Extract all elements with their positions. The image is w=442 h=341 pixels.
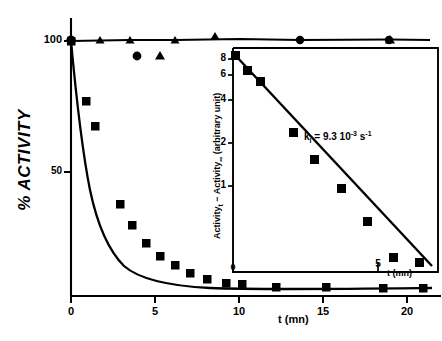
inset-ytick-label-2: 2 — [206, 136, 226, 147]
main-xtick-label-0: 0 — [61, 305, 81, 317]
main-xtick-label-10: 10 — [229, 305, 249, 317]
decay-square-marker — [67, 37, 76, 46]
rate-units-exponent: -1 — [365, 130, 371, 137]
decay-square-marker — [222, 279, 231, 288]
inset-ytick-label-8: 8 — [206, 52, 226, 63]
rate-constant-annotation: ki = 9.3 10-3 s-1 — [304, 130, 372, 144]
control-circle-marker — [296, 36, 304, 44]
inset-square-marker — [415, 258, 424, 267]
decay-square-marker — [379, 284, 388, 293]
main-x-axis-label: t (mn) — [278, 313, 309, 325]
inset-ytick-label-1: 1 — [206, 179, 226, 190]
inset-square-marker — [289, 128, 298, 137]
decay-square-marker — [238, 280, 247, 289]
decay-square-marker — [91, 122, 100, 131]
inset-ytick-label-6: 6 — [206, 68, 226, 79]
offline-triangle-marker — [155, 51, 165, 60]
inset-square-marker — [363, 217, 372, 226]
inset-xtick-label-5: 5 — [369, 258, 387, 269]
decay-square-marker — [322, 283, 331, 292]
main-xtick-label-20: 20 — [397, 305, 417, 317]
decay-square-marker — [171, 261, 180, 270]
decay-square-marker — [419, 284, 428, 293]
offline-circle-marker — [133, 52, 142, 61]
rate-value: = 9.3 10 — [312, 131, 351, 142]
inset-square-marker — [389, 253, 398, 262]
inset-square-marker — [256, 77, 265, 86]
main-ytick-label-100: 100 — [28, 33, 62, 45]
inset-x-axis-label: t (mn) — [387, 268, 412, 278]
main-ytick-label-50: 50 — [36, 165, 62, 176]
decay-square-marker — [116, 200, 125, 209]
control-series-line — [71, 39, 430, 41]
decay-square-marker — [82, 97, 91, 106]
main-xtick-label-15: 15 — [313, 305, 333, 317]
inset-square-marker — [337, 184, 346, 193]
control-triangle-marker — [211, 32, 220, 40]
control-circle-marker — [385, 36, 393, 44]
inset-xtick-label-0: 0 — [224, 262, 242, 272]
inset-square-marker — [243, 66, 252, 75]
inset-ylabel-activity-t: Activity — [212, 207, 222, 240]
main-y-axis-label: % ACTIVITY — [15, 95, 35, 225]
inset-ylabel-subscript-inf: ∞ — [217, 157, 224, 162]
decay-square-marker — [203, 275, 212, 284]
inset-square-marker — [310, 155, 319, 164]
decay-square-marker — [142, 239, 151, 248]
main-xtick-label-5: 5 — [145, 305, 165, 317]
inset-ytick-label-4: 4 — [206, 93, 226, 104]
decay-square-marker — [186, 269, 195, 278]
decay-square-marker — [156, 252, 165, 261]
decay-square-marker — [128, 221, 137, 230]
inset-panel — [228, 48, 438, 272]
inset-ylabel-subscript-t: t — [217, 204, 224, 206]
inset-square-marker — [231, 51, 240, 60]
decay-square-marker — [272, 283, 281, 292]
figure-container: % ACTIVITY 100 50 0 5 10 15 20 t (mn) Ac… — [0, 0, 442, 341]
